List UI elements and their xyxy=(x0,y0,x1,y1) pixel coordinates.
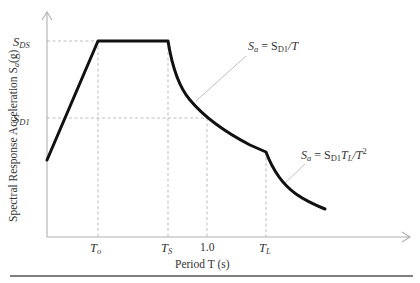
spectrum-curve xyxy=(47,41,325,209)
reference-gridlines xyxy=(47,41,266,237)
x-label-tl: TL xyxy=(259,241,271,256)
x-label-t0: To xyxy=(90,241,101,256)
x-axis-title: Period T (s) xyxy=(175,258,230,271)
y-label-sds: SDS xyxy=(13,35,30,50)
annotation-sd1-tl-over-t2: Sa = SD1TL/T2 xyxy=(301,146,367,163)
response-spectrum-chart: SDS SD1 To TS 1.0 TL Period T (s) Spectr… xyxy=(0,0,420,283)
leader-line-2 xyxy=(284,164,305,184)
leader-line-1 xyxy=(196,56,246,101)
annotation-sd1-over-t: Sa = SD1/T xyxy=(248,39,299,54)
y-axis-title: Spectral Response Acceleration Sa(g) xyxy=(7,50,21,222)
x-label-ts: TS xyxy=(161,241,173,256)
x-label-1: 1.0 xyxy=(200,241,215,253)
